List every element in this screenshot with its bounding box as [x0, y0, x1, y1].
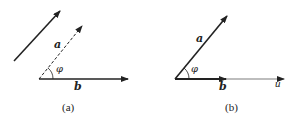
- caption-b: (b): [225, 101, 238, 114]
- panel-b: a φ b u (b): [175, 16, 284, 114]
- angle-arc: [48, 68, 53, 79]
- label-b: b: [74, 80, 82, 93]
- label-a: a: [54, 38, 61, 51]
- free-vector-a-arrow: [14, 11, 60, 61]
- label-u: u: [275, 77, 281, 89]
- vector-a-arrow: [175, 16, 227, 79]
- label-a: a: [196, 32, 203, 45]
- panel-a: a φ b (a): [14, 11, 128, 114]
- caption-a: (a): [62, 101, 75, 114]
- label-phi: φ: [56, 63, 63, 74]
- vector-projection-figure: a φ b (a) a φ b u (b): [0, 0, 293, 127]
- figure-canvas: a φ b (a) a φ b u (b): [0, 0, 293, 127]
- label-phi: φ: [191, 63, 198, 74]
- angle-arc: [184, 68, 189, 79]
- label-b: b: [219, 80, 227, 93]
